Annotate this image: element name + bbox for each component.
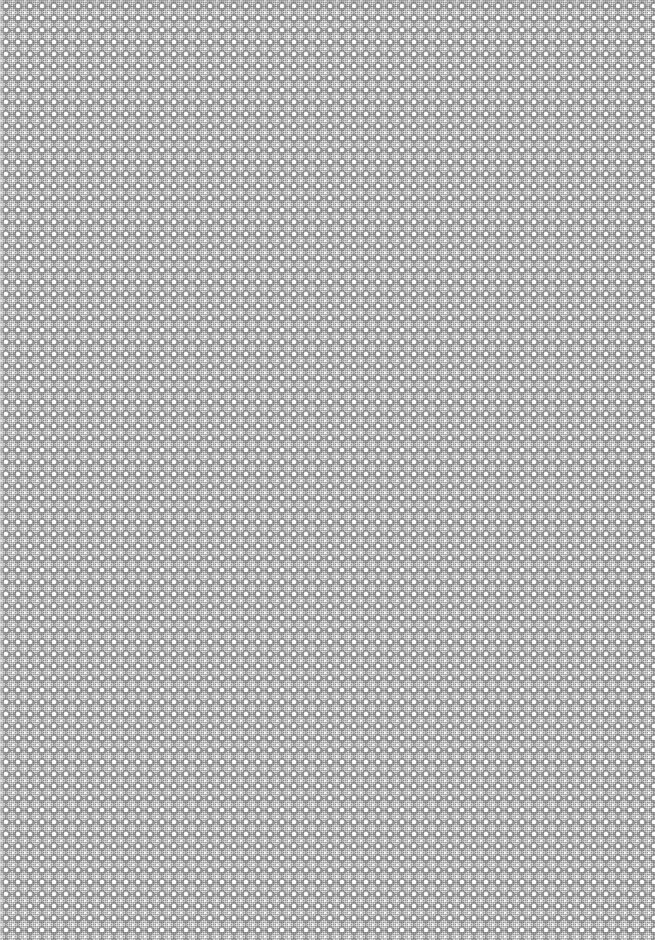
left-edge-shading — [0, 0, 4, 940]
top-edge-shading — [0, 0, 655, 4]
diamond-lattice-background — [0, 0, 655, 940]
